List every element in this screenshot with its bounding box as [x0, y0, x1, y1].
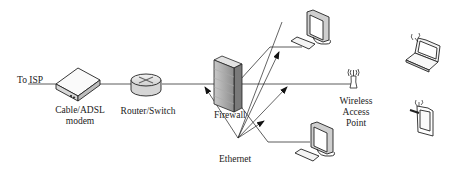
wireless-antenna-icon	[348, 69, 359, 88]
wap-label-line1: Wireless	[338, 96, 374, 107]
wireless-laptop-icon	[406, 33, 440, 72]
modem-icon	[56, 68, 100, 101]
router-label: Router/Switch	[118, 106, 178, 117]
modem-label-line1: Cable/ADSL	[51, 105, 109, 116]
router-icon	[131, 74, 161, 96]
firewall-label: Firewall	[214, 110, 246, 121]
wap-label-line2: Access	[338, 107, 374, 118]
firewall-pc-bottom-link	[236, 100, 310, 142]
desktop-computer-icon-top	[291, 10, 331, 49]
modem-label-line2: modem	[51, 116, 109, 127]
firewall-icon	[214, 56, 242, 112]
ethernet-label: Ethernet	[219, 154, 251, 165]
wap-label-line3: Point	[338, 118, 374, 129]
desktop-computer-icon-bottom	[295, 122, 335, 161]
wireless-phone-icon	[410, 100, 433, 136]
network-diagram	[0, 0, 454, 174]
isp-label: To ISP	[17, 75, 43, 86]
wap-label: Wireless Access Point	[338, 96, 374, 129]
modem-label: Cable/ADSL modem	[51, 105, 109, 127]
